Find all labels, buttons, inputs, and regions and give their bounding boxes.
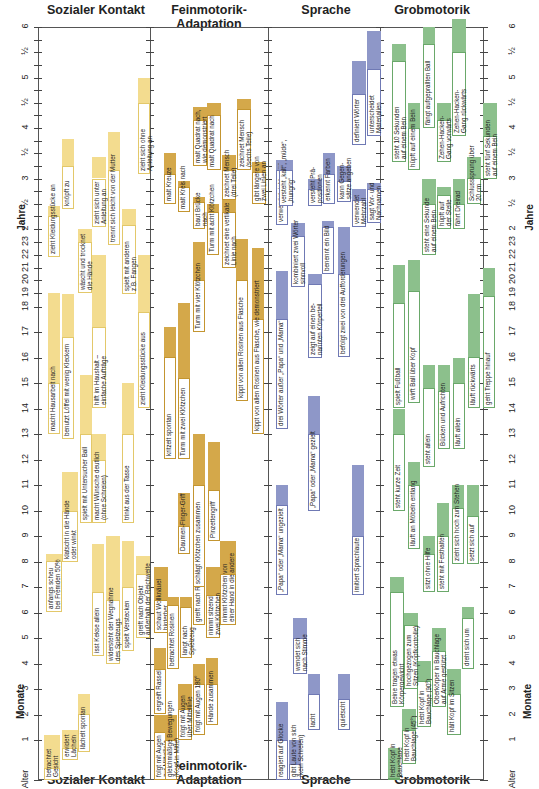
milestone-label: benutzt Löffel mit wenig Kleckern (63, 344, 70, 436)
milestone-label: erkennt Farben (324, 158, 331, 201)
milestone-label: quietscht (339, 702, 346, 727)
milestone-label: kritzelt spontan (165, 414, 172, 456)
axis-tick (264, 90, 272, 91)
axis-tick (264, 511, 272, 512)
milestone-bar: gibt Laute von sich (kein Schreien) (289, 740, 301, 780)
milestone-label: isst Kekse allein (93, 608, 100, 653)
axis-tick (146, 65, 154, 66)
axis-tick (264, 115, 272, 116)
axis-tick-label: 16 (507, 342, 517, 372)
milestone-fill (237, 99, 251, 110)
milestone-fill (206, 567, 220, 595)
milestone-fill (338, 674, 350, 700)
milestone-bar: malt Quadrat nach, wie demonstriert (193, 107, 207, 166)
axis-tick (376, 293, 384, 294)
milestone-label: steht 10 Sekunden auf einem Bein (393, 106, 407, 159)
axis-tick (34, 216, 42, 217)
axis-tick (34, 460, 42, 461)
milestone-label: zeichnet Mensch (drei Teile) (223, 149, 237, 196)
milestone-bar: sitzt ohne Hilfe (423, 536, 435, 592)
axis-tick (480, 485, 488, 486)
milestone-bar: zeichnet eine vertikale Linie nach (222, 200, 236, 268)
milestone-bar: definiert Wörter (352, 61, 366, 145)
milestone-label: befolgt zwei von drei Aufforderungen (339, 252, 346, 354)
axis-tick-label: 5 (20, 62, 30, 92)
milestone-fill (164, 327, 176, 358)
axis-tick (264, 204, 272, 205)
axis-tick (264, 293, 272, 294)
milestone-label: spielt Fußball (394, 368, 401, 405)
axis-tick (264, 103, 272, 104)
milestone-bar: hilft im Haushalt – einfache Aufträge (92, 255, 106, 409)
milestone-label: kombiniert zwei Wörter sinnvoll (292, 220, 306, 284)
milestone-bar: steht kurze Zeit (393, 409, 405, 511)
milestone-label: wäscht und trocknet die Hände (79, 234, 93, 290)
axis-tick (480, 460, 488, 461)
axis-tick (264, 78, 272, 79)
milestone-label: zeigt auf einen be- nannten Körperteil (309, 303, 323, 355)
axis-tick (480, 587, 488, 588)
axis-tick (264, 52, 272, 53)
axis-tick (480, 434, 488, 435)
axis-tick (376, 358, 384, 359)
axis-tick-label: 3 (507, 163, 517, 193)
milestone-bar: Turm mit zwei Klötzchen (178, 303, 190, 459)
milestone-bar: erkennt Farben (323, 153, 335, 204)
axis-tick (146, 434, 154, 435)
milestone-label: hebt Kopf in Bauchlage (45°) (403, 716, 417, 761)
axis-tick (376, 179, 384, 180)
axis-tick (34, 204, 42, 205)
milestone-fill (207, 103, 221, 116)
milestone-label: versteht Prä- positionen (309, 167, 323, 203)
axis-tick (480, 740, 488, 741)
milestone-bar: zieht sich unter Anleitung an (92, 157, 106, 226)
axis-tick (264, 141, 272, 142)
axis-tick (376, 715, 384, 716)
milestone-bar: hochgezogen zum Sitzen (Kopfkontrolle) (404, 613, 418, 690)
milestone-bar: läuft allein (453, 358, 465, 450)
axis-tick (34, 562, 42, 563)
axis-tick (34, 103, 42, 104)
axis-tick (480, 409, 488, 410)
milestone-bar: folgt mit Augen 180° (193, 664, 205, 735)
milestone-bar: trennt sich leicht von der Mutter (108, 132, 120, 244)
axis-tick (264, 409, 272, 410)
milestone-bar: Oberkörper in Bauchlage auf Arme gestütz… (432, 628, 446, 707)
milestone-bar: imitiert Sprachlaute (352, 465, 364, 595)
milestone-fill (308, 396, 320, 434)
axis-tick (376, 562, 384, 563)
axis-tick (480, 780, 488, 781)
milestone-fill (62, 139, 74, 166)
milestone-label: macht Hausarbeit nach (49, 366, 56, 431)
milestone-bar: kritzelt spontan (164, 327, 176, 460)
milestone-label: Oberkörper in Bauchlage auf Arme gestütz… (433, 634, 447, 704)
axis-tick (480, 40, 488, 41)
milestone-bar: hält Kopf im Sitzen (447, 669, 461, 735)
axis-tick (376, 409, 384, 410)
milestone-bar: reagiert auf Glocke (276, 702, 288, 780)
milestone-label: zieht sich hoch zum Stehen (453, 484, 460, 561)
milestone-label: Pinzettengriff (209, 501, 216, 538)
axis-tick (264, 460, 272, 461)
axis-tick (480, 65, 488, 66)
milestone-bar: fährt Dreirad (453, 179, 465, 230)
milestone-fill (122, 209, 136, 225)
milestone-bar: versteht Prä- positionen (308, 179, 322, 206)
milestone-fill (80, 375, 92, 434)
axis-tick (146, 27, 154, 28)
axis-tick (264, 332, 272, 333)
milestone-bar: zieht sich ohne Anleitung an (138, 78, 150, 175)
milestone-fill (193, 434, 205, 485)
axis-tick-label: 6 (20, 597, 30, 627)
milestone-label: setzt sich auf (468, 524, 475, 561)
milestone-fill (452, 19, 466, 53)
axis-tick (34, 242, 42, 243)
axis-tick (480, 613, 488, 614)
axis-tick-label: 10 (507, 495, 517, 525)
axis-tick (34, 280, 42, 281)
milestone-label: Turm mit acht Klötzchen (208, 184, 215, 252)
axis-tick-label: 8 (20, 546, 30, 576)
axis-tick (146, 242, 154, 243)
axis-tick (264, 358, 272, 359)
axis-tick (376, 280, 384, 281)
